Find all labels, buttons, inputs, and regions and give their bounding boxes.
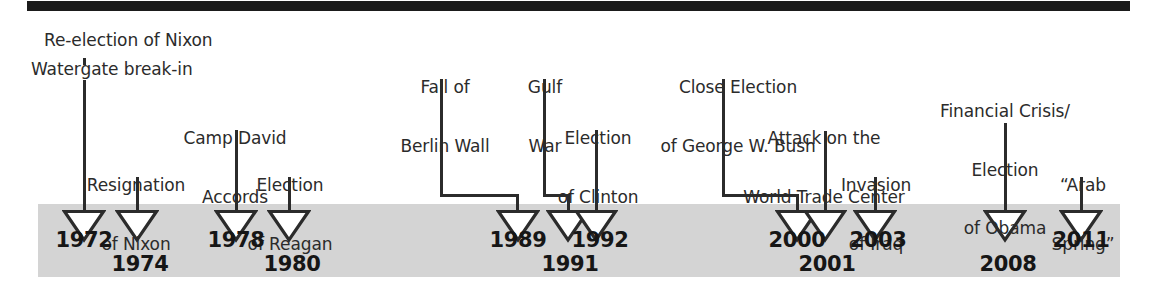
year-label-1989: 1989	[489, 228, 546, 252]
year-label-1980: 1980	[263, 252, 320, 276]
year-label-2003: 2003	[849, 228, 906, 252]
event-label-financial-crisis-election-of-obama: Financial Crisis/ Election of Obama	[940, 63, 1070, 278]
year-label-2000: 2000	[768, 228, 825, 252]
timeline-figure: Re-election of Nixon Watergate break-in …	[0, 0, 1157, 295]
year-label-1992: 1992	[571, 228, 628, 252]
event-label-line: of Clinton	[558, 188, 639, 208]
event-label-line: Berlin Wall	[400, 137, 489, 157]
event-label-line: Election	[558, 129, 639, 149]
event-label-line: Election	[940, 161, 1070, 181]
event-label-line: “Arab	[1052, 176, 1115, 196]
year-label-1978: 1978	[207, 228, 264, 252]
year-label-2008: 2008	[979, 252, 1036, 276]
event-label-line: Election	[248, 176, 333, 196]
event-label-line: Resignation	[87, 176, 186, 196]
year-label-2011: 2011	[1052, 228, 1109, 252]
event-label-watergate-break-in: Watergate break-in	[31, 60, 193, 80]
event-label-arab-spring: “Arab Spring”	[1052, 137, 1115, 293]
event-label-election-of-clinton: Election of Clinton	[558, 90, 639, 246]
year-label-1991: 1991	[541, 252, 598, 276]
event-label-line: Financial Crisis/	[940, 102, 1070, 122]
year-label-1974: 1974	[111, 252, 168, 276]
event-label-re-election-of-nixon: Re-election of Nixon	[44, 31, 213, 51]
event-label-line: Fall of	[400, 78, 489, 98]
year-label-2001: 2001	[798, 252, 855, 276]
event-label-line: of Obama	[940, 219, 1070, 239]
event-label-line: Invasion	[841, 176, 911, 196]
top-rule	[27, 1, 1130, 11]
year-label-1972: 1972	[55, 228, 112, 252]
event-label-fall-of-berlin-wall: Fall of Berlin Wall	[400, 39, 489, 195]
